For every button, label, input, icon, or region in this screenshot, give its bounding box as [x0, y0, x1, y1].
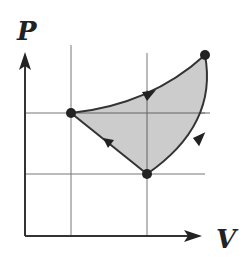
state-point-left	[66, 108, 76, 118]
x-axis-label: V	[216, 224, 239, 254]
pv-diagram: P V	[0, 0, 248, 257]
state-point-bottom	[142, 169, 152, 179]
state-point-top-right	[200, 50, 210, 60]
cycle-area	[71, 55, 207, 174]
arrow-down-icon	[192, 132, 207, 147]
y-axis-label: P	[16, 16, 38, 46]
